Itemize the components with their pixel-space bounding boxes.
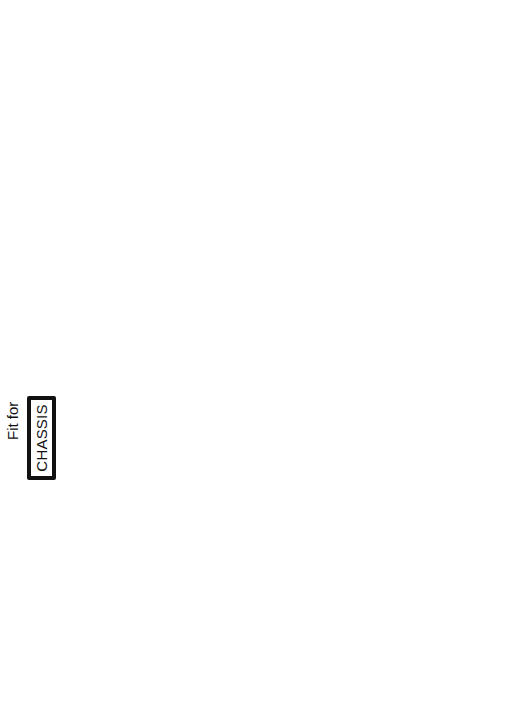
build-stages-diagram: Fit for CHASSIS xyxy=(0,0,518,716)
stage-box-chassis: CHASSIS xyxy=(27,396,56,480)
fit-for-label: Fit for xyxy=(4,402,21,440)
